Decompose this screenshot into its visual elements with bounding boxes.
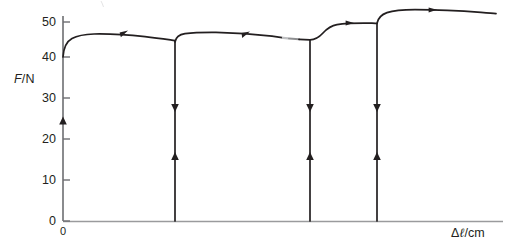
y-tick-label-40: 40 — [42, 50, 56, 64]
cycle-2-unload-arrow-icon — [306, 104, 314, 112]
cycle-1-curve-arrow-icon — [120, 30, 128, 37]
cycle-3-reload-arrow-icon — [306, 152, 314, 160]
y-tick-label-20: 20 — [42, 132, 56, 146]
chart-canvas: 0 10 20 30 40 50 0 — [0, 0, 515, 250]
y-axis-title: F/N — [14, 72, 35, 86]
cycle-2-reload-arrow-icon — [171, 152, 179, 160]
y-tick-label-50: 50 — [42, 15, 56, 29]
y-tick-label-0: 0 — [49, 214, 56, 228]
y-axis-unit: /N — [22, 72, 35, 86]
cycle-4-reload-arrow-icon — [373, 152, 381, 160]
cycle-4-loading-curve — [377, 10, 496, 24]
cycle-3-curve-arrow-icon — [346, 21, 354, 26]
y-axis-quantity-symbol: F — [14, 72, 22, 86]
axes-group — [63, 16, 503, 222]
cycle-4-curve-arrow-icon — [429, 7, 437, 12]
x-origin-label: 0 — [60, 225, 66, 237]
y-tick-label-30: 30 — [42, 91, 56, 105]
cycle-1-unload-arrow-icon — [171, 104, 179, 112]
data-traces — [63, 10, 496, 221]
top-edge-artifact — [101, 1, 104, 7]
force-extension-chart: 0 10 20 30 40 50 0 — [0, 0, 515, 250]
y-axis-loading-arrow-icon — [59, 117, 67, 125]
x-axis-title: Δℓ/cm — [451, 226, 485, 241]
x-axis-unit: /cm — [465, 226, 485, 240]
direction-arrows — [59, 7, 437, 160]
cycle-3-unload-arrow-icon — [373, 104, 381, 112]
curve-resume-segment — [289, 39, 299, 40]
y-axis-tick-labels: 0 10 20 30 40 50 — [42, 15, 56, 228]
cycle-1-loading-curve — [63, 34, 175, 57]
curve-break-gap — [283, 38, 288, 39]
cycle-3-loading-curve — [299, 23, 377, 40]
cycle-2-loading-curve — [175, 32, 282, 42]
y-tick-label-10: 10 — [42, 173, 56, 187]
